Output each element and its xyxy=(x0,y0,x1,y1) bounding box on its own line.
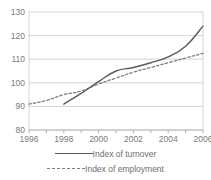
x-tick-label: 2000 xyxy=(89,134,108,144)
legend-label: Index of employment xyxy=(85,164,164,174)
y-tick-label: 120 xyxy=(11,31,25,41)
gridlines xyxy=(29,12,203,106)
plot-area: 130 120 110 100 90 80 1996 1998 2000 200… xyxy=(0,0,211,145)
y-axis-labels: 130 120 110 100 90 80 xyxy=(11,7,25,135)
legend-item-index-of-turnover: Index of turnover xyxy=(0,146,211,161)
chart-svg: 130 120 110 100 90 80 1996 1998 2000 200… xyxy=(0,0,211,145)
series-line-index-of-employment xyxy=(29,53,203,104)
y-tick-label: 110 xyxy=(11,54,25,64)
x-tick-label: 2006 xyxy=(194,134,211,144)
x-axis-labels: 1996 1998 2000 2002 2004 2006 xyxy=(20,134,211,144)
x-tick-label: 2002 xyxy=(124,134,143,144)
legend-swatch-dashed-line-icon xyxy=(47,164,85,174)
y-tick-label: 130 xyxy=(11,7,25,17)
legend-item-index-of-employment: Index of employment xyxy=(0,161,211,176)
series-line-index-of-turnover xyxy=(64,26,203,104)
line-chart: 130 120 110 100 90 80 1996 1998 2000 200… xyxy=(0,0,211,180)
x-tick-label: 1996 xyxy=(20,134,39,144)
chart-legend: Index of turnover Index of employment xyxy=(0,146,211,176)
legend-swatch-solid-line-icon xyxy=(55,149,93,159)
x-tick-label: 1998 xyxy=(54,134,73,144)
x-tick-label: 2004 xyxy=(159,134,178,144)
legend-label: Index of turnover xyxy=(93,149,157,159)
y-tick-label: 100 xyxy=(11,78,25,88)
y-tick-label: 90 xyxy=(16,101,26,111)
